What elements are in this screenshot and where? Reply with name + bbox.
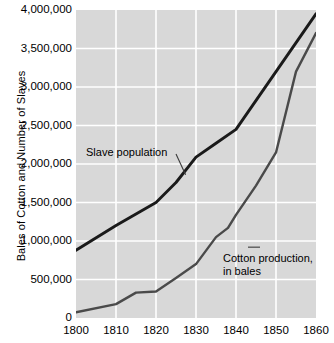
x-tick-label: 1860 [293,325,334,337]
annotation-cotton-production-line2: in bales [223,265,313,278]
annotation-cotton-production-line1: Cotton production, [223,252,313,265]
annotation-slave-population-text: Slave population [86,146,167,159]
annotation-cotton-production: Cotton production, in bales [223,252,313,277]
annotation-slave-population: Slave population [86,146,167,159]
